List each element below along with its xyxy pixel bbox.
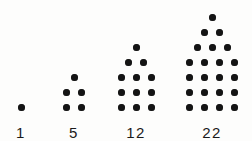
dot xyxy=(201,104,208,111)
dot-row xyxy=(205,10,220,25)
dot-row xyxy=(121,55,151,70)
dot xyxy=(201,29,208,36)
dot xyxy=(78,104,85,111)
figure-group-2: 5 xyxy=(48,70,100,141)
dot-row xyxy=(114,85,159,100)
dot xyxy=(224,44,231,51)
dot xyxy=(186,59,193,66)
dot-row xyxy=(129,40,144,55)
dot-row xyxy=(59,85,89,100)
count-label-1: 1 xyxy=(16,124,26,141)
dot-stack-4 xyxy=(182,10,242,115)
figure-group-1: 1 xyxy=(4,100,38,141)
dot xyxy=(63,89,70,96)
dot xyxy=(78,89,85,96)
dot xyxy=(201,59,208,66)
dot xyxy=(63,104,70,111)
dot xyxy=(216,104,223,111)
dot xyxy=(216,74,223,81)
dot xyxy=(125,59,132,66)
dot xyxy=(186,89,193,96)
dot-row xyxy=(182,85,242,100)
dot xyxy=(118,74,125,81)
dot-stack-3 xyxy=(114,40,159,115)
dot xyxy=(231,104,238,111)
dot xyxy=(231,74,238,81)
dot xyxy=(231,89,238,96)
dot xyxy=(148,89,155,96)
dot xyxy=(148,104,155,111)
dot xyxy=(201,89,208,96)
dot xyxy=(18,104,25,111)
dot xyxy=(133,44,140,51)
dot-row xyxy=(190,40,235,55)
dot-row xyxy=(114,100,159,115)
dot-stack-2 xyxy=(59,70,89,115)
count-label-3: 12 xyxy=(126,124,146,141)
count-label-4: 22 xyxy=(202,124,222,141)
dot-row xyxy=(197,25,227,40)
dot xyxy=(71,74,78,81)
dot xyxy=(209,44,216,51)
dot-row xyxy=(182,70,242,85)
dot xyxy=(216,59,223,66)
dot xyxy=(186,104,193,111)
count-label-2: 5 xyxy=(69,124,79,141)
dot-row xyxy=(182,100,242,115)
dot xyxy=(201,74,208,81)
dot xyxy=(140,59,147,66)
dot xyxy=(216,89,223,96)
dot xyxy=(186,74,193,81)
dot xyxy=(194,44,201,51)
dot xyxy=(231,59,238,66)
dot-row xyxy=(67,70,82,85)
dot xyxy=(133,89,140,96)
dot-row xyxy=(14,100,29,115)
dot-stack-1 xyxy=(14,100,29,115)
dot xyxy=(209,14,216,21)
dot-row xyxy=(182,55,242,70)
dot xyxy=(118,89,125,96)
dot-pattern-figure: 1 5 12 22 xyxy=(0,0,252,141)
dot xyxy=(133,104,140,111)
figure-group-4: 22 xyxy=(176,10,248,141)
figure-group-3: 12 xyxy=(104,40,168,141)
dot xyxy=(133,74,140,81)
dot xyxy=(148,74,155,81)
dot xyxy=(118,104,125,111)
dot-row xyxy=(114,70,159,85)
dot-row xyxy=(59,100,89,115)
dot xyxy=(216,29,223,36)
